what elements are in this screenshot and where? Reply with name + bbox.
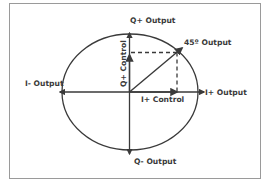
i-positive-output-label: I+ Output (205, 88, 247, 97)
q-control-label: Q+ Control (119, 40, 128, 87)
i-negative-output-label: I- Output (25, 79, 64, 88)
q-negative-output-label: Q- Output (134, 157, 177, 166)
diagonal-output-label: 45º Output (184, 38, 232, 47)
iq-vector-diagram: Q+ Output Q- Output I- Output I+ Output … (0, 0, 265, 185)
q-positive-output-label: Q+ Output (130, 16, 176, 25)
i-control-label: I+ Control (141, 95, 184, 104)
